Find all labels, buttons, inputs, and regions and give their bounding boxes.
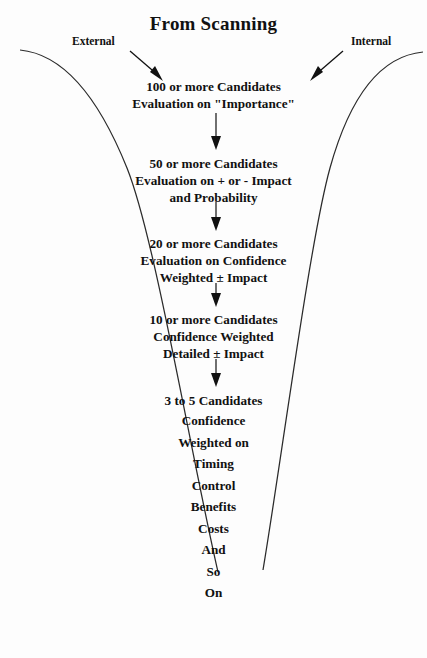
- stage-line: and Probability: [0, 189, 427, 206]
- stage-line: Benefits: [0, 496, 427, 518]
- stage-line: 50 or more Candidates: [0, 155, 427, 172]
- stage-line: Evaluation on Confidence: [0, 252, 427, 269]
- stage-line: 3 to 5 Candidates: [0, 391, 427, 410]
- stage-line: Confidence: [0, 410, 427, 432]
- stage-line: Detailed ± Impact: [0, 345, 427, 362]
- funnel-diagram: From Scanning External Internal 100 or m…: [0, 0, 427, 658]
- label-external: External: [72, 36, 115, 48]
- stage-100-candidates: 100 or more Candidates Evaluation on "Im…: [0, 78, 427, 112]
- stage-20-candidates: 20 or more Candidates Evaluation on Conf…: [0, 235, 427, 286]
- stage-line: Costs: [0, 518, 427, 540]
- stage-line: Weighted ± Impact: [0, 269, 427, 286]
- stage-line: 100 or more Candidates: [0, 78, 427, 95]
- stage-line: Confidence Weighted: [0, 328, 427, 345]
- stage-50-candidates: 50 or more Candidates Evaluation on + or…: [0, 155, 427, 206]
- external-source-arrow: [130, 51, 163, 81]
- stage-arrow-2-to-3: [211, 202, 221, 231]
- stage-line: Weighted on: [0, 432, 427, 454]
- stage-line: Evaluation on + or - Impact: [0, 172, 427, 189]
- stage-line: On: [0, 582, 427, 604]
- stage-3-to-5-candidates: 3 to 5 Candidates Confidence Weighted on…: [0, 391, 427, 604]
- stage-10-candidates: 10 or more Candidates Confidence Weighte…: [0, 311, 427, 362]
- stage-arrow-4-to-5: [211, 359, 221, 387]
- stage-line: So: [0, 561, 427, 583]
- stage-line: 20 or more Candidates: [0, 235, 427, 252]
- stage-line: Evaluation on "Importance": [0, 95, 427, 112]
- stage-line: 10 or more Candidates: [0, 311, 427, 328]
- label-internal: Internal: [351, 36, 391, 48]
- stage-arrow-1-to-2: [211, 113, 221, 150]
- diagram-title: From Scanning: [0, 14, 427, 33]
- internal-source-arrow: [310, 51, 343, 81]
- stage-line: Timing: [0, 453, 427, 475]
- stage-line: Control: [0, 475, 427, 497]
- stage-arrow-3-to-4: [211, 283, 221, 307]
- stage-line: And: [0, 539, 427, 561]
